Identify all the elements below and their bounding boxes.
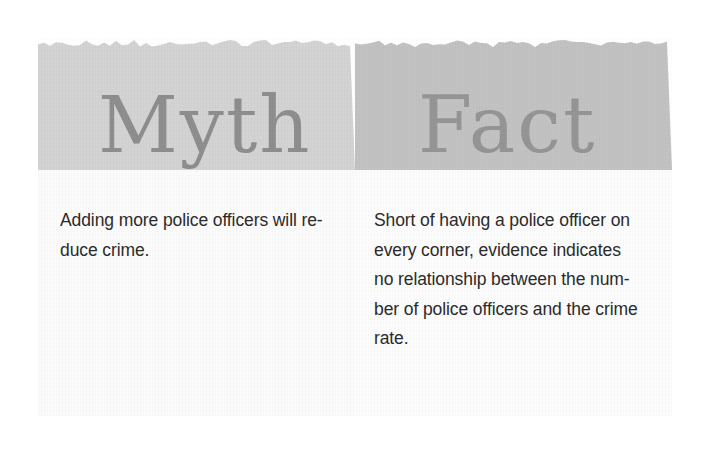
fact-heading: Fact xyxy=(418,86,596,164)
myth-body-text: Adding more police officers will re- duc… xyxy=(60,206,340,265)
fact-body-text: Short of having a police officer on ever… xyxy=(374,206,656,354)
scanned-page: Myth Fact Adding more police officers wi… xyxy=(0,0,711,455)
myth-fact-panel: Myth Fact Adding more police officers wi… xyxy=(38,38,672,416)
myth-heading: Myth xyxy=(98,86,312,164)
